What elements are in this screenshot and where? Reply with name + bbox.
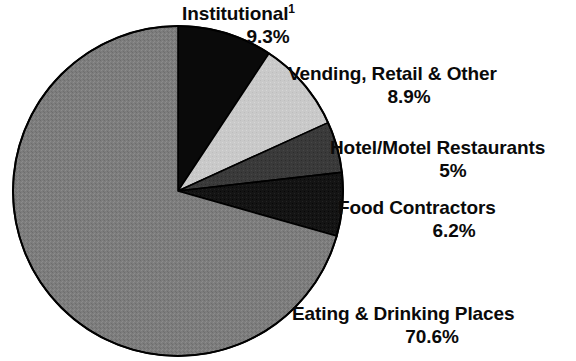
slice-label-institutional: Institutional1 9.3% xyxy=(182,2,354,48)
slice-label-hotel-motel-percent: 5% xyxy=(330,159,576,182)
slice-label-institutional-percent: 9.3% xyxy=(182,25,354,48)
pie-chart-figure: Institutional1 9.3% Vending, Retail & Ot… xyxy=(0,0,576,361)
slice-label-eating-drinking-category: Eating & Drinking Places xyxy=(292,302,572,325)
slice-label-eating-drinking: Eating & Drinking Places 70.6% xyxy=(292,302,572,348)
slice-label-food-contractors: Food Contractors 6.2% xyxy=(338,196,570,242)
slice-label-institutional-category: Institutional1 xyxy=(182,2,354,25)
footnote-marker: 1 xyxy=(288,2,295,16)
slice-label-hotel-motel: Hotel/Motel Restaurants 5% xyxy=(330,136,576,182)
slice-label-hotel-motel-category: Hotel/Motel Restaurants xyxy=(330,136,576,159)
slice-label-vending-category: Vending, Retail & Other xyxy=(288,62,530,85)
slice-label-eating-drinking-percent: 70.6% xyxy=(292,325,572,348)
slice-label-food-contractors-category: Food Contractors xyxy=(338,196,570,219)
slice-label-vending-percent: 8.9% xyxy=(288,85,530,108)
slice-label-vending: Vending, Retail & Other 8.9% xyxy=(288,62,530,108)
slice-label-food-contractors-percent: 6.2% xyxy=(338,219,570,242)
